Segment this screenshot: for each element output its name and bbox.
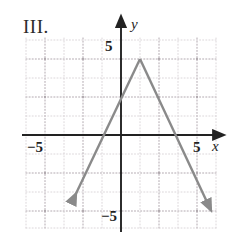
function-curve bbox=[72, 59, 207, 202]
y-axis-tick-label-minus-5: −5 bbox=[101, 208, 117, 225]
y-axis-tick-label-5: 5 bbox=[105, 38, 113, 55]
x-axis-name-label: x bbox=[212, 138, 219, 155]
y-axis-name-label: y bbox=[131, 16, 138, 33]
x-axis-tick-label-5: 5 bbox=[193, 139, 201, 156]
figure-panel: III. 5 −5 −5 5 y x bbox=[0, 0, 235, 239]
x-axis-tick-label-minus-5: −5 bbox=[27, 139, 43, 156]
figure-roman-numeral-label: III. bbox=[23, 16, 49, 38]
